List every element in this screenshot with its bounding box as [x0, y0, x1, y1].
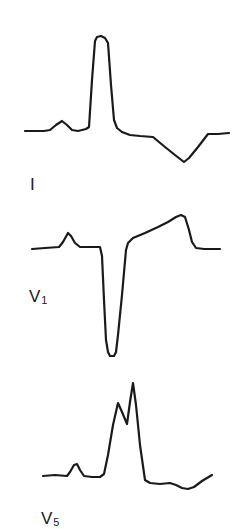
lead-v5-label: V5 — [41, 510, 59, 527]
lead-v1-label-main: V — [29, 287, 40, 306]
lead-v1-trace — [32, 215, 220, 356]
lead-v1-label-sub: 1 — [41, 294, 47, 306]
lead-v5-trace — [43, 383, 212, 489]
lead-v1-label: V1 — [29, 288, 47, 305]
lead-v5-label-sub: 5 — [53, 516, 59, 528]
ecg-figure — [0, 0, 244, 529]
lead-v5-label-main: V — [41, 509, 52, 528]
lead-i-trace — [25, 36, 229, 162]
lead-i-label: I — [30, 176, 35, 193]
lead-i-label-main: I — [30, 175, 35, 194]
